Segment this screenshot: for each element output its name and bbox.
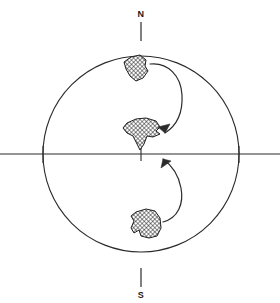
lower-migration-arrow xyxy=(163,159,182,222)
south-pole-label: S xyxy=(138,290,144,300)
upper-migration-arrowhead xyxy=(158,124,170,133)
lower-cluster xyxy=(131,209,161,238)
north-pole-label: N xyxy=(138,9,145,19)
lower-migration-arrowhead xyxy=(161,159,171,168)
stereonet-canvas: N S xyxy=(0,0,280,303)
stereonet-figure: N S xyxy=(0,0,280,303)
central-cluster xyxy=(123,118,160,150)
upper-cluster xyxy=(124,55,148,81)
